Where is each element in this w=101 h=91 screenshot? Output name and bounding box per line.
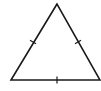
triangle-outline xyxy=(11,4,100,80)
equilateral-triangle-diagram xyxy=(0,0,101,91)
